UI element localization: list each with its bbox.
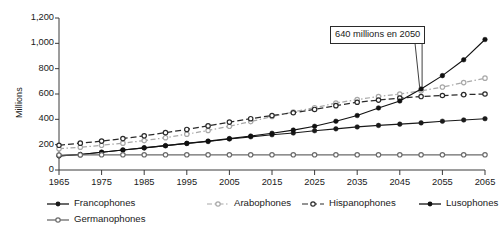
y-axis-tick-label: 600 bbox=[10, 88, 54, 98]
y-axis-tick-label: 1,200 bbox=[10, 12, 54, 22]
y-axis-tick-label: 1,000 bbox=[10, 37, 54, 47]
legend-row-secondary: Germanophones bbox=[46, 212, 490, 228]
series-germanophones bbox=[57, 153, 487, 158]
x-axis-tick-label: 2025 bbox=[291, 177, 339, 187]
annotation-callout: 640 millions en 2050 bbox=[330, 26, 425, 44]
legend-item-hispanophones[interactable]: Hispanophones bbox=[301, 196, 396, 208]
legend-line-icon bbox=[206, 196, 230, 208]
x-axis-tick-label: 2065 bbox=[461, 177, 503, 187]
x-axis-tick-label: 1985 bbox=[120, 177, 168, 187]
legend-item-arabophones[interactable]: Arabophones bbox=[206, 196, 291, 208]
legend-item-francophones[interactable]: Francophones bbox=[46, 196, 135, 208]
x-axis-tick-label: 2045 bbox=[376, 177, 424, 187]
y-axis-tick-label: 200 bbox=[10, 139, 54, 149]
y-axis-tick-label: 800 bbox=[10, 63, 54, 73]
x-axis-tick-label: 2055 bbox=[418, 177, 466, 187]
x-axis-tick-label: 2035 bbox=[333, 177, 381, 187]
legend-item-lusophones[interactable]: Lusophones bbox=[418, 196, 498, 208]
series-hispanophones bbox=[57, 92, 487, 148]
x-axis-tick-label: 2005 bbox=[205, 177, 253, 187]
legend-row-primary: FrancophonesArabophonesHispanophonesLuso… bbox=[46, 196, 490, 212]
x-axis-tick-label: 2015 bbox=[248, 177, 296, 187]
legend-line-icon bbox=[301, 196, 325, 208]
annotation-leader-lines bbox=[415, 44, 422, 87]
legend-line-icon bbox=[418, 196, 442, 208]
legend-item-germanophones[interactable]: Germanophones bbox=[46, 212, 145, 224]
legend-swatch-arabophones bbox=[206, 198, 230, 210]
legend-item-label: Hispanophones bbox=[329, 197, 396, 208]
x-axis-tick-label: 1975 bbox=[78, 177, 126, 187]
legend-item-label: Francophones bbox=[74, 197, 135, 208]
legend-item-label: Lusophones bbox=[446, 197, 498, 208]
legend-item-label: Germanophones bbox=[74, 213, 145, 224]
legend-line-icon bbox=[46, 196, 70, 208]
y-axis-tick-label: 0 bbox=[10, 164, 54, 174]
x-axis-tick-label: 1965 bbox=[35, 177, 83, 187]
legend-line-icon bbox=[46, 212, 70, 224]
legend-swatch-hispanophones bbox=[301, 198, 325, 210]
chart-legend: FrancophonesArabophonesHispanophonesLuso… bbox=[46, 196, 490, 228]
legend-item-label: Arabophones bbox=[234, 197, 291, 208]
y-axis-tick-label: 400 bbox=[10, 113, 54, 123]
legend-swatch-francophones bbox=[46, 198, 70, 210]
legend-swatch-lusophones bbox=[418, 198, 442, 210]
legend-swatch-germanophones bbox=[46, 214, 70, 226]
x-axis-tick-label: 1995 bbox=[163, 177, 211, 187]
